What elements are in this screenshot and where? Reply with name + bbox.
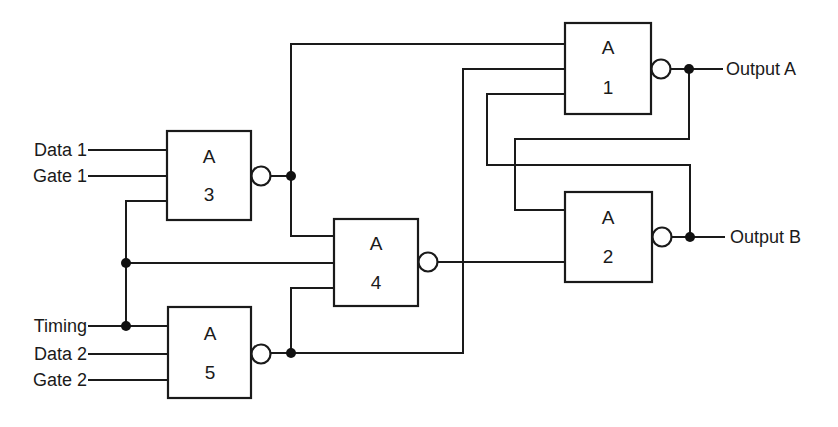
wire-gate5-to-gate4 <box>291 288 334 353</box>
junction-dot <box>121 321 131 331</box>
junction-dot <box>685 232 695 242</box>
gate-box <box>168 307 251 398</box>
junction-dot <box>121 258 131 268</box>
output-label-a: Output A <box>726 59 796 79</box>
gate-number-label: 1 <box>603 77 614 98</box>
gate-type-label: A <box>602 207 615 228</box>
input-label-timing: Timing <box>34 316 87 336</box>
inversion-bubble-icon <box>252 167 271 186</box>
logic-circuit-diagram: A 1 A 2 A 3 A 4 A 5 Data 1 Gate 1 Timing… <box>0 0 838 427</box>
inversion-bubble-icon <box>653 228 672 247</box>
input-labels: Data 1 Gate 1 Timing Data 2 Gate 2 <box>33 140 87 390</box>
gate-5: A 5 <box>168 307 271 398</box>
inversion-bubble-icon <box>419 253 438 272</box>
gate-number-label: 3 <box>204 184 215 205</box>
gate-number-label: 5 <box>205 362 216 383</box>
inversion-bubble-icon <box>252 345 271 364</box>
input-label-data2: Data 2 <box>34 344 87 364</box>
gate-box <box>565 192 652 282</box>
output-label-b: Output B <box>730 227 801 247</box>
input-label-gate2: Gate 2 <box>33 370 87 390</box>
inversion-bubble-icon <box>652 60 671 79</box>
output-labels: Output A Output B <box>726 59 801 247</box>
gate-number-label: 4 <box>371 272 382 293</box>
gate-1: A 1 <box>565 23 671 114</box>
input-label-data1: Data 1 <box>34 140 87 160</box>
input-label-gate1: Gate 1 <box>33 166 87 186</box>
gate-type-label: A <box>602 37 615 58</box>
junction-dot <box>286 171 296 181</box>
gate-type-label: A <box>370 233 383 254</box>
gate-number-label: 2 <box>603 246 614 267</box>
gate-2: A 2 <box>565 192 672 282</box>
gate-3: A 3 <box>167 131 271 220</box>
junction-dot <box>684 64 694 74</box>
gate-type-label: A <box>203 146 216 167</box>
gate-4: A 4 <box>334 219 438 306</box>
junction-dot <box>286 348 296 358</box>
gate-box <box>167 131 251 220</box>
gate-type-label: A <box>204 323 217 344</box>
